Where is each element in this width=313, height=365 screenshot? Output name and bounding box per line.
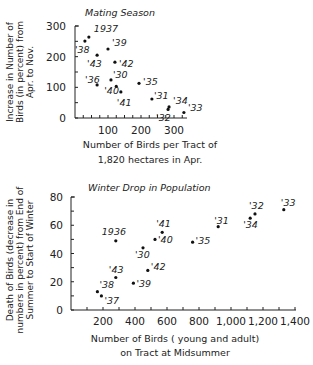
data-point	[146, 269, 149, 272]
x-tick-label: 600	[157, 315, 177, 327]
y-axis-label: numbers in percent) from End of	[15, 186, 25, 334]
data-point-label: 1936	[102, 226, 126, 237]
data-point-label: '42	[151, 261, 166, 272]
data-point	[282, 208, 285, 211]
data-point	[191, 241, 194, 244]
data-point	[166, 108, 169, 111]
data-point-label: '38	[99, 279, 114, 290]
data-point-label: '31	[214, 215, 229, 226]
y-tick-label: 0	[59, 112, 66, 124]
data-point	[87, 35, 90, 38]
y-axis-label: Birds (in percent) from	[15, 21, 25, 123]
data-point-label: '35	[196, 235, 211, 246]
x-tick-label: 1,000	[216, 315, 246, 327]
data-point-label: '31	[154, 90, 169, 101]
data-point-label: '41	[156, 218, 171, 229]
x-tick-label: 200	[131, 124, 151, 136]
data-point	[113, 61, 116, 64]
y-axis-label: Apr. to Nov.	[25, 46, 35, 98]
x-axis-label: 1,820 hectares in Apr.	[98, 154, 203, 165]
data-point	[100, 294, 103, 297]
x-tick-label: 200	[93, 315, 113, 327]
data-point	[83, 39, 86, 42]
data-point	[137, 82, 140, 85]
x-axis-label: on Tract at Midsummer	[120, 347, 230, 358]
chart-title: Mating Season	[85, 7, 155, 18]
data-point	[132, 282, 135, 285]
data-point-label: '30	[113, 69, 128, 80]
data-point	[114, 276, 117, 279]
data-point-label: '43	[87, 58, 102, 69]
x-tick-label: 800	[189, 315, 209, 327]
data-point	[96, 54, 99, 57]
data-point-label: '38	[75, 44, 90, 55]
data-point	[153, 238, 156, 241]
data-point-label: '37	[104, 295, 119, 306]
data-point-label: '34	[173, 95, 188, 106]
data-point-label: '42	[119, 58, 134, 69]
y-axis-label: Summer to Start of Winter	[25, 200, 35, 319]
chart-title: Winter Drop in Population	[88, 182, 211, 193]
data-point-label: '33	[281, 197, 296, 208]
data-point	[253, 212, 256, 215]
y-axis-label: Death of Birds (decrease in	[5, 199, 15, 322]
data-point-label: '30	[135, 249, 150, 260]
y-axis-label-group: Increase in Number ofBirds (in percent) …	[5, 21, 35, 123]
x-tick-label: 100	[98, 124, 118, 136]
data-point	[106, 47, 109, 50]
data-point-label: '36	[85, 74, 100, 85]
y-axis-label-group: Death of Birds (decrease innumbers in pe…	[5, 186, 35, 334]
x-axis-label: Number of Birds per Tract of	[83, 139, 218, 150]
data-point-label: '32	[249, 200, 264, 211]
scatter-charts: 0100200300100200300Mating SeasonNumber o…	[0, 0, 313, 365]
y-tick-label: 0	[56, 304, 63, 316]
data-point-label: '39	[112, 37, 127, 48]
data-point-label: '43	[109, 264, 124, 275]
data-point-label: '33	[188, 102, 203, 113]
y-tick-label: 300	[46, 20, 66, 32]
data-point-label: '39	[136, 278, 151, 289]
data-point-label: '32	[156, 112, 171, 123]
x-tick-label: 400	[125, 315, 145, 327]
y-tick-label: 200	[46, 51, 66, 63]
y-tick-label: 100	[46, 81, 66, 93]
x-tick-label: 1,200	[248, 315, 278, 327]
x-axis-label: Number of Birds ( young and adult)	[91, 333, 259, 344]
data-point-label: '35	[143, 76, 158, 87]
data-point	[119, 90, 122, 93]
y-tick-label: 20	[50, 276, 63, 288]
data-point-label: 1937	[94, 23, 118, 34]
winter-drop-chart: 0204060802004006008001,0001,2001,400Wint…	[5, 182, 310, 358]
data-point-label: '40	[104, 85, 119, 96]
x-tick-label: 300	[164, 124, 184, 136]
data-point-label: '41	[117, 97, 132, 108]
y-tick-label: 80	[50, 191, 63, 203]
mating-season-chart: 0100200300100200300Mating SeasonNumber o…	[5, 7, 218, 165]
data-point	[182, 111, 185, 114]
y-tick-label: 60	[50, 219, 63, 231]
data-point-label: '34	[243, 219, 258, 230]
data-point-label: '40	[158, 234, 173, 245]
data-point	[114, 239, 117, 242]
y-axis-label: Increase in Number of	[5, 21, 15, 122]
y-tick-label: 40	[50, 248, 63, 260]
x-tick-label: 1,400	[280, 315, 310, 327]
data-point	[96, 290, 99, 293]
